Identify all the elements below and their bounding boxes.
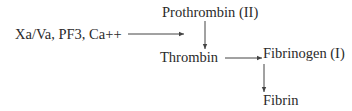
arrows-layer [0,0,352,111]
